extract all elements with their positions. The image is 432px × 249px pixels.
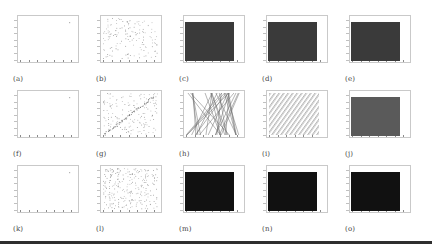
y-tick <box>346 121 349 122</box>
plot-frame <box>17 15 79 63</box>
y-tick <box>346 108 349 109</box>
y-tick <box>263 177 266 178</box>
y-tick <box>97 183 100 184</box>
y-tick <box>180 95 183 96</box>
y-tick <box>180 20 183 21</box>
y-tick <box>346 102 349 103</box>
y-tick <box>346 128 349 129</box>
y-tick <box>180 46 183 47</box>
y-tick <box>263 128 266 129</box>
y-tick <box>180 135 183 136</box>
y-tick <box>97 53 100 54</box>
y-tick <box>97 203 100 204</box>
y-tick <box>346 170 349 171</box>
subplot-label: (b) <box>96 75 107 83</box>
y-tick <box>180 203 183 204</box>
subplot-label: (m) <box>179 225 192 233</box>
plot-frame <box>266 90 328 138</box>
y-tick <box>180 121 183 122</box>
subplot-g: (g) <box>96 90 176 162</box>
y-tick <box>14 128 17 129</box>
y-tick <box>180 183 183 184</box>
y-tick <box>97 170 100 171</box>
y-tick <box>346 203 349 204</box>
y-tick <box>14 53 17 54</box>
y-tick <box>346 60 349 61</box>
subplot-label: (o) <box>345 225 355 233</box>
plot-area <box>184 91 244 137</box>
y-tick <box>14 177 17 178</box>
subplot-o: (o) <box>345 165 425 237</box>
subplot-k: (k) <box>13 165 93 237</box>
plot-area <box>350 166 410 212</box>
y-tick <box>263 115 266 116</box>
plot-area <box>267 16 327 62</box>
y-tick <box>180 33 183 34</box>
y-tick <box>180 170 183 171</box>
y-tick <box>97 40 100 41</box>
subplot-label: (c) <box>179 75 189 83</box>
plot-area <box>350 91 410 137</box>
subplot-i: (i) <box>262 90 342 162</box>
y-tick <box>97 33 100 34</box>
y-tick <box>180 108 183 109</box>
y-tick <box>14 95 17 96</box>
y-tick <box>14 203 17 204</box>
y-tick <box>263 108 266 109</box>
plot-frame <box>266 15 328 63</box>
y-tick <box>14 60 17 61</box>
y-tick <box>180 53 183 54</box>
subplot-label: (l) <box>96 225 104 233</box>
y-tick <box>14 196 17 197</box>
y-tick <box>263 121 266 122</box>
y-tick <box>97 60 100 61</box>
y-tick <box>97 95 100 96</box>
y-tick <box>14 108 17 109</box>
y-tick <box>180 190 183 191</box>
subplot-label: (j) <box>345 150 353 158</box>
y-tick <box>263 210 266 211</box>
plot-frame <box>349 15 411 63</box>
y-tick <box>180 128 183 129</box>
y-tick <box>97 210 100 211</box>
subplot-j: (j) <box>345 90 425 162</box>
plot-frame <box>17 165 79 213</box>
y-tick <box>14 33 17 34</box>
y-tick <box>14 210 17 211</box>
y-tick <box>346 20 349 21</box>
y-tick <box>263 20 266 21</box>
y-tick <box>263 183 266 184</box>
subplot-c: (c) <box>179 15 259 87</box>
y-tick <box>263 53 266 54</box>
plot-area <box>18 91 78 137</box>
y-tick <box>180 102 183 103</box>
y-tick <box>97 128 100 129</box>
subplot-label: (n) <box>262 225 273 233</box>
plot-area <box>267 91 327 137</box>
y-tick <box>346 53 349 54</box>
plot-area <box>350 16 410 62</box>
subplot-e: (e) <box>345 15 425 87</box>
y-tick <box>263 27 266 28</box>
plot-area <box>18 16 78 62</box>
y-tick <box>14 40 17 41</box>
y-tick <box>346 115 349 116</box>
y-tick <box>97 196 100 197</box>
y-tick <box>97 108 100 109</box>
y-tick <box>180 115 183 116</box>
plot-frame <box>100 165 162 213</box>
y-tick <box>97 20 100 21</box>
y-tick <box>263 196 266 197</box>
y-tick <box>346 210 349 211</box>
plot-area <box>184 166 244 212</box>
y-tick <box>97 27 100 28</box>
y-tick <box>14 27 17 28</box>
y-tick <box>346 135 349 136</box>
y-tick <box>263 33 266 34</box>
y-tick <box>14 115 17 116</box>
y-tick <box>14 20 17 21</box>
y-tick <box>97 115 100 116</box>
subplot-f: (f) <box>13 90 93 162</box>
y-tick <box>97 46 100 47</box>
y-tick <box>263 135 266 136</box>
